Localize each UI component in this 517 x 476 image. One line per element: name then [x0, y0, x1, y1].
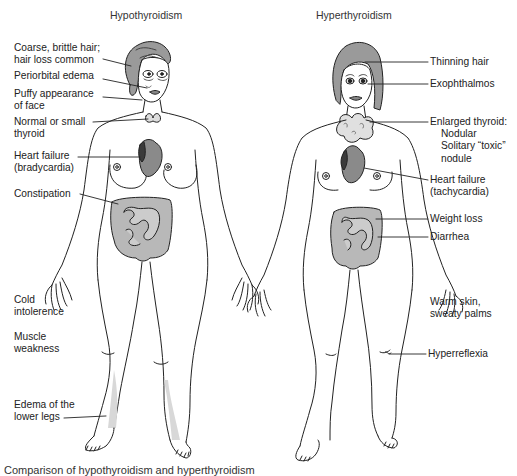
label-line: sweaty palms: [430, 308, 492, 319]
label-line: Hyperreflexia: [428, 348, 488, 359]
label-line: Normal or small: [14, 116, 85, 127]
label-heart-failure-bradycardia: Heart failure (bradycardia): [14, 150, 74, 174]
label-line: nodule: [430, 153, 507, 165]
label-line: hair loss common: [14, 54, 94, 65]
label-heart-failure-tachycardia: Heart failure (tachycardia): [430, 174, 489, 198]
label-line: Periorbital edema: [14, 70, 94, 81]
label-line: Weight loss: [430, 213, 482, 224]
label-muscle-weakness: Muscle weakness: [14, 331, 59, 355]
label-coarse-hair: Coarse, brittle hair; hair loss common: [14, 42, 100, 66]
label-line: Enlarged thyroid:: [430, 116, 507, 127]
label-exophthalmos: Exophthalmos: [430, 78, 495, 90]
label-line: lower legs: [14, 411, 60, 422]
hypothyroidism-title: Hypothyroidism: [110, 9, 182, 21]
label-small-thyroid: Normal or small thyroid: [14, 116, 85, 140]
label-line: Exophthalmos: [430, 78, 495, 89]
label-line: Nodular: [430, 128, 507, 140]
label-thinning-hair: Thinning hair: [430, 56, 489, 68]
label-line: weakness: [14, 343, 59, 354]
label-line: Warm skin,: [430, 296, 481, 307]
label-line: Solitary “toxic”: [430, 140, 507, 152]
label-line: Muscle: [14, 331, 46, 342]
label-line: Coarse, brittle hair;: [14, 42, 100, 53]
label-hyperreflexia: Hyperreflexia: [428, 348, 488, 360]
label-weight-loss: Weight loss: [430, 213, 482, 225]
label-line: of face: [14, 100, 45, 111]
label-line: Cold: [14, 294, 35, 305]
label-line: Puffy appearance: [14, 88, 94, 99]
label-line: (tachycardia): [430, 186, 489, 197]
label-line: Constipation: [14, 188, 71, 199]
label-line: (bradycardia): [14, 162, 74, 173]
label-line: Heart failure: [14, 150, 70, 161]
label-line: Thinning hair: [430, 56, 489, 67]
label-line: thyroid: [14, 128, 45, 139]
label-cold-intolerance: Cold intolerence: [14, 294, 64, 318]
label-puffy-face: Puffy appearance of face: [14, 88, 94, 112]
label-line: Heart failure: [430, 174, 486, 185]
label-periorbital-edema: Periorbital edema: [14, 70, 94, 82]
label-constipation: Constipation: [14, 188, 71, 200]
label-line: Diarrhea: [430, 231, 469, 242]
hyperthyroid-figure: [247, 42, 463, 461]
label-diarrhea: Diarrhea: [430, 231, 469, 243]
figure-caption: Comparison of hypothyroidism and hyperth…: [4, 464, 255, 476]
label-enlarged-thyroid: Enlarged thyroid: Nodular Solitary “toxi…: [430, 116, 507, 165]
hyperthyroidism-title: Hyperthyroidism: [316, 9, 392, 21]
label-warm-skin: Warm skin, sweaty palms: [430, 296, 492, 320]
label-line: Edema of the: [14, 399, 75, 410]
label-line: intolerence: [14, 306, 64, 317]
label-edema-lower-legs: Edema of the lower legs: [14, 399, 75, 423]
